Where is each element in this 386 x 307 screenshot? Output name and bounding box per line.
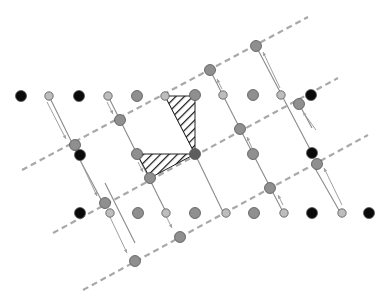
atom-gray: [190, 90, 201, 101]
atom-gray: [265, 183, 276, 194]
atom-light: [338, 209, 346, 217]
atom-light: [222, 209, 230, 217]
atom-light: [162, 209, 170, 217]
atom-light: [104, 92, 112, 100]
atom-black: [75, 150, 86, 161]
atom-black: [306, 90, 317, 101]
hatched-triangle: [165, 96, 195, 154]
displacement-arrow-icon: [303, 112, 316, 130]
atom-light: [277, 91, 285, 99]
atom-gray: [132, 149, 143, 160]
atom-gray: [132, 91, 143, 102]
atom-light: [161, 92, 169, 100]
atom-gray: [115, 115, 126, 126]
atom-gray: [251, 41, 262, 52]
atom-black: [16, 91, 27, 102]
atom-gray: [248, 149, 259, 160]
atom-gray: [133, 208, 144, 219]
atom-gray: [145, 173, 156, 184]
atom-light: [45, 92, 53, 100]
atom-gray: [190, 208, 201, 219]
atom-light: [219, 91, 227, 99]
atom-gray: [235, 124, 246, 135]
atom-black: [307, 208, 318, 219]
atom-dark: [190, 149, 201, 160]
bond-line: [210, 70, 253, 154]
atoms: [16, 41, 375, 267]
atom-black: [74, 91, 85, 102]
atom-gray: [130, 256, 141, 267]
atom-light: [280, 209, 288, 217]
atom-gray: [294, 99, 305, 110]
displacement-arrow-icon: [263, 52, 280, 88]
atom-gray: [100, 198, 111, 209]
bond-line: [256, 46, 312, 153]
displacement-arrow-icon: [47, 102, 66, 139]
atom-gray: [312, 159, 323, 170]
atom-black: [307, 148, 318, 159]
atom-gray: [249, 208, 260, 219]
lattice-diagram: [0, 0, 386, 307]
atom-gray: [205, 65, 216, 76]
atom-black: [364, 208, 375, 219]
displacement-arrow-icon: [166, 216, 172, 228]
atom-gray: [175, 232, 186, 243]
bond-line: [195, 154, 223, 212]
atom-gray: [70, 140, 81, 151]
atom-black: [75, 208, 86, 219]
atom-light: [106, 209, 114, 217]
displacement-arrow-icon: [80, 160, 97, 196]
hatched-triangles: [137, 96, 195, 178]
atom-gray: [248, 90, 259, 101]
